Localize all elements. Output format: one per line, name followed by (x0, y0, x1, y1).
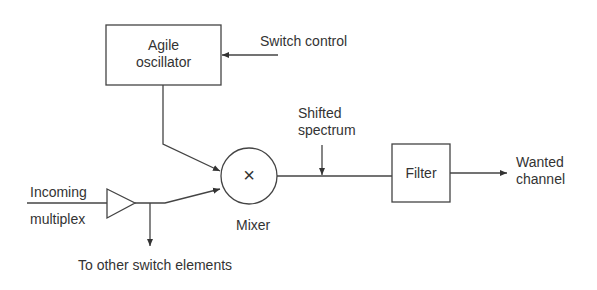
switch-control-label: Switch control (260, 33, 347, 50)
multiplex-label: multiplex (30, 211, 85, 228)
oscillator-to-mixer-arrow (163, 85, 220, 171)
oscillator-label-line2: oscillator (106, 54, 221, 71)
mixer-symbol: × (235, 164, 263, 186)
wanted-channel-line1: Wanted (516, 154, 565, 171)
wanted-channel-line2: channel (516, 171, 565, 188)
shifted-spectrum-label: Shifted spectrum (298, 105, 356, 139)
other-elements-label: To other switch elements (78, 257, 232, 274)
amplifier-to-mixer-arrow (135, 189, 220, 203)
mixer-label: Mixer (236, 217, 270, 234)
oscillator-label-line1: Agile (106, 37, 221, 54)
filter-label: Filter (392, 165, 450, 182)
oscillator-label: Agile oscillator (106, 37, 221, 71)
wanted-channel-label: Wanted channel (516, 154, 565, 188)
incoming-label: Incoming (30, 184, 87, 201)
shifted-spectrum-line1: Shifted (298, 105, 356, 122)
shifted-spectrum-line2: spectrum (298, 122, 356, 139)
amplifier-triangle (107, 189, 135, 218)
